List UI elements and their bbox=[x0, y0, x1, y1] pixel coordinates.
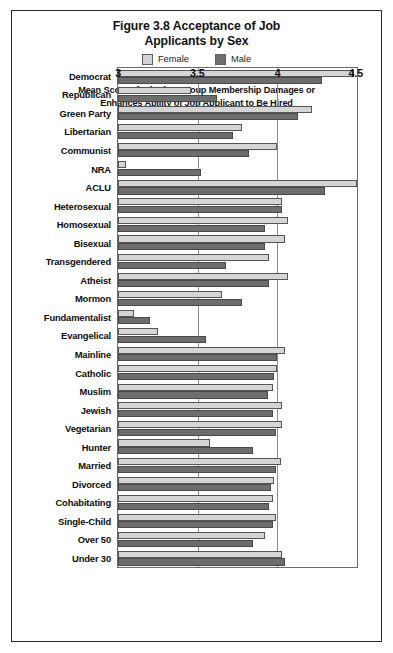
bar-female bbox=[118, 273, 288, 280]
bar-cell bbox=[117, 271, 358, 290]
category-label: Over 50 bbox=[12, 534, 117, 545]
bar-female bbox=[118, 87, 191, 94]
bar-male bbox=[118, 206, 282, 213]
bar-male bbox=[118, 132, 233, 139]
category-label: Muslim bbox=[12, 386, 117, 397]
bar-female bbox=[118, 384, 273, 391]
bar-cell bbox=[117, 215, 358, 234]
gridline bbox=[277, 512, 278, 531]
chart-row: Green Party bbox=[12, 104, 381, 123]
bar-female bbox=[118, 328, 158, 335]
bar-cell bbox=[117, 382, 358, 401]
chart-row: Libertarian bbox=[12, 123, 381, 142]
category-label: Mainline bbox=[12, 349, 117, 360]
chart-row: Homosexual bbox=[12, 215, 381, 234]
category-label: Fundamentalist bbox=[12, 312, 117, 323]
chart-row: Bisexual bbox=[12, 234, 381, 253]
bar-male bbox=[118, 243, 265, 250]
chart-row: Heterosexual bbox=[12, 197, 381, 216]
category-label: Married bbox=[12, 460, 117, 471]
chart-title: Figure 3.8 Acceptance of Job Applicants … bbox=[12, 19, 381, 48]
bar-female bbox=[118, 124, 242, 131]
legend-swatch-female-icon bbox=[142, 54, 153, 65]
bar-male bbox=[118, 150, 249, 157]
category-label: Atheist bbox=[12, 275, 117, 286]
category-label: Under 30 bbox=[12, 553, 117, 564]
gridline bbox=[198, 308, 199, 327]
chart-row: Atheist bbox=[12, 271, 381, 290]
category-label: Mormon bbox=[12, 293, 117, 304]
bar-male bbox=[118, 484, 271, 491]
bar-female bbox=[118, 180, 357, 187]
gridline bbox=[277, 160, 278, 179]
gridline bbox=[277, 494, 278, 513]
chart-row: Hunter bbox=[12, 438, 381, 457]
chart-row: Communist bbox=[12, 141, 381, 160]
chart-row: ACLU bbox=[12, 178, 381, 197]
bar-female bbox=[118, 291, 222, 298]
chart-row: Transgendered bbox=[12, 252, 381, 271]
bar-cell bbox=[117, 364, 358, 383]
bar-female bbox=[118, 495, 273, 502]
bar-cell bbox=[117, 123, 358, 142]
bar-female bbox=[118, 421, 282, 428]
bar-female bbox=[118, 458, 281, 465]
bar-male bbox=[118, 391, 268, 398]
gridline bbox=[277, 327, 278, 346]
x-tick-label: 3 bbox=[115, 67, 121, 79]
category-label: ACLU bbox=[12, 182, 117, 193]
bar-male bbox=[118, 354, 277, 361]
bar-female bbox=[118, 477, 274, 484]
bar-female bbox=[118, 551, 282, 558]
bar-male bbox=[118, 317, 150, 324]
bar-male bbox=[118, 336, 206, 343]
bar-male bbox=[118, 558, 285, 565]
bar-cell bbox=[117, 234, 358, 253]
category-label: Homosexual bbox=[12, 219, 117, 230]
legend-label-female: Female bbox=[158, 54, 189, 64]
chart-row: Divorced bbox=[12, 475, 381, 494]
figure-frame: Figure 3.8 Acceptance of Job Applicants … bbox=[11, 10, 382, 642]
bar-male bbox=[118, 521, 273, 528]
bar-cell bbox=[117, 252, 358, 271]
bar-cell bbox=[117, 475, 358, 494]
bar-female bbox=[118, 402, 282, 409]
chart-row: Catholic bbox=[12, 364, 381, 383]
bar-cell bbox=[117, 197, 358, 216]
bar-female bbox=[118, 235, 285, 242]
chart-row: Mainline bbox=[12, 345, 381, 364]
gridline bbox=[277, 438, 278, 457]
bar-male bbox=[118, 447, 253, 454]
bar-male bbox=[118, 503, 269, 510]
category-label: Democrat bbox=[12, 71, 117, 82]
legend-label-male: Male bbox=[231, 54, 251, 64]
bar-male bbox=[118, 113, 298, 120]
bar-cell bbox=[117, 512, 358, 531]
category-label: Vegetarian bbox=[12, 423, 117, 434]
bar-female bbox=[118, 365, 277, 372]
category-label: Green Party bbox=[12, 108, 117, 119]
gridline bbox=[277, 141, 278, 160]
category-label: Bisexual bbox=[12, 238, 117, 249]
bar-male bbox=[118, 169, 201, 176]
bar-male bbox=[118, 95, 217, 102]
bar-female bbox=[118, 198, 282, 205]
bar-male bbox=[118, 540, 253, 547]
bar-male bbox=[118, 299, 242, 306]
chart-row: Single-Child bbox=[12, 512, 381, 531]
bar-cell bbox=[117, 160, 358, 179]
chart-row: NRA bbox=[12, 160, 381, 179]
bar-cell bbox=[117, 290, 358, 309]
x-tick-label: 4 bbox=[275, 67, 281, 79]
bar-female bbox=[118, 347, 285, 354]
legend-swatch-male-icon bbox=[215, 54, 226, 65]
bar-female bbox=[118, 143, 277, 150]
chart-row: Under 30 bbox=[12, 549, 381, 568]
bar-female bbox=[118, 310, 134, 317]
bar-cell bbox=[117, 531, 358, 550]
chart-row: Cohabitating bbox=[12, 494, 381, 513]
legend-entry-male: Male bbox=[215, 54, 251, 65]
bar-female bbox=[118, 532, 265, 539]
gridline bbox=[277, 252, 278, 271]
bar-cell bbox=[117, 86, 358, 105]
